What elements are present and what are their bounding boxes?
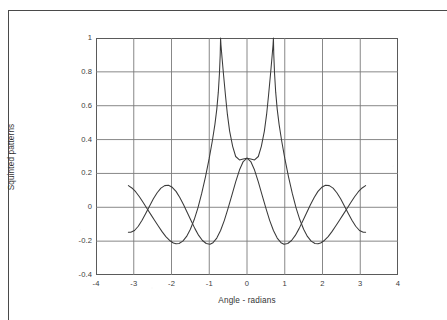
y-tick-label: 0.2 <box>58 169 92 177</box>
plot-canvas <box>96 38 398 275</box>
y-axis-title: Squinted patterns <box>7 123 16 190</box>
x-axis-title: Angle - radians <box>96 296 398 305</box>
x-tick-label: 0 <box>232 280 262 288</box>
y-axis-tick-labels: 10.80.60.40.20-0.2-0.4 <box>54 38 92 275</box>
squinted-patterns-chart: 10.80.60.40.20-0.2-0.4 -4-3-2-101234 Ang… <box>0 0 447 320</box>
x-tick-label: -3 <box>119 280 149 288</box>
x-axis-tick-labels: -4-3-2-101234 <box>96 280 398 294</box>
y-tick-label: 0.8 <box>58 68 92 76</box>
x-tick-label: -4 <box>81 280 111 288</box>
y-axis-title-container: Squinted patterns <box>0 38 22 275</box>
scanned-page: 10.80.60.40.20-0.2-0.4 -4-3-2-101234 Ang… <box>0 0 447 320</box>
x-tick-label: -1 <box>194 280 224 288</box>
y-tick-label: -0.2 <box>58 237 92 245</box>
y-tick-label: -0.4 <box>58 271 92 279</box>
x-tick-label: -2 <box>157 280 187 288</box>
x-tick-label: 2 <box>308 280 338 288</box>
x-tick-label: 3 <box>345 280 375 288</box>
y-tick-label: 1 <box>58 34 92 42</box>
y-tick-label: 0.4 <box>58 136 92 144</box>
y-tick-label: 0.6 <box>58 102 92 110</box>
x-tick-label: 1 <box>270 280 300 288</box>
grid-lines <box>96 38 398 275</box>
y-tick-label: 0 <box>58 203 92 211</box>
x-tick-label: 4 <box>383 280 413 288</box>
